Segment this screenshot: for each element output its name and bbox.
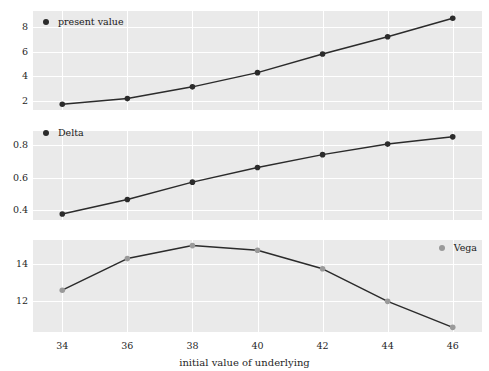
- data-point-marker: [125, 256, 131, 262]
- y-tick-label: 14: [2, 259, 28, 269]
- x-tick-label: 36: [107, 341, 147, 351]
- y-tick-label: 6: [2, 47, 28, 57]
- data-point-marker: [385, 34, 391, 40]
- data-point-marker: [450, 134, 456, 140]
- data-point-marker: [450, 15, 456, 21]
- data-point-marker: [320, 152, 326, 158]
- data-point-marker: [450, 325, 456, 331]
- data-point-marker: [125, 197, 131, 203]
- legend-marker-icon: [439, 245, 445, 251]
- data-point-marker: [125, 96, 131, 102]
- x-tick-label: 34: [42, 341, 82, 351]
- data-point-marker: [320, 266, 326, 272]
- y-tick-label: 4: [2, 71, 28, 81]
- legend-marker-icon: [43, 130, 49, 136]
- x-tick-label: 42: [303, 341, 343, 351]
- x-axis-title: initial value of underlying: [0, 358, 489, 368]
- x-tick-label: 40: [238, 341, 278, 351]
- data-point-marker: [255, 165, 261, 171]
- y-tick-label: 0.8: [2, 140, 28, 150]
- data-point-marker: [255, 247, 261, 253]
- y-tick-label: 12: [2, 296, 28, 306]
- legend-1: present value: [43, 17, 124, 27]
- data-point-marker: [385, 141, 391, 147]
- legend-label: Delta: [58, 128, 84, 138]
- figure-canvas: 2468present value0.40.60.8Delta1214Vega3…: [0, 0, 489, 371]
- data-point-marker: [385, 299, 391, 305]
- data-series-3: [33, 240, 482, 332]
- y-tick-label: 0.6: [2, 173, 28, 183]
- series-line: [62, 246, 452, 328]
- legend-3: Vega: [439, 243, 477, 253]
- data-point-marker: [59, 211, 65, 217]
- data-point-marker: [255, 70, 261, 76]
- x-tick-label: 38: [172, 341, 212, 351]
- data-point-marker: [190, 84, 196, 90]
- x-tick-label: 44: [368, 341, 408, 351]
- legend-label: present value: [58, 17, 124, 27]
- chart-panel-3: [33, 240, 482, 332]
- data-series-2: [33, 131, 482, 220]
- y-tick-label: 2: [2, 96, 28, 106]
- legend-label: Vega: [454, 243, 477, 253]
- y-tick-label: 0.4: [2, 205, 28, 215]
- x-tick-label: 46: [433, 341, 473, 351]
- series-line: [62, 137, 452, 214]
- data-point-marker: [59, 101, 65, 107]
- series-line: [62, 18, 452, 104]
- data-point-marker: [190, 243, 196, 249]
- data-point-marker: [320, 51, 326, 57]
- legend-marker-icon: [43, 19, 49, 25]
- chart-panel-2: [33, 131, 482, 220]
- data-point-marker: [190, 179, 196, 185]
- y-tick-label: 8: [2, 22, 28, 32]
- data-point-marker: [59, 287, 65, 293]
- legend-2: Delta: [43, 128, 84, 138]
